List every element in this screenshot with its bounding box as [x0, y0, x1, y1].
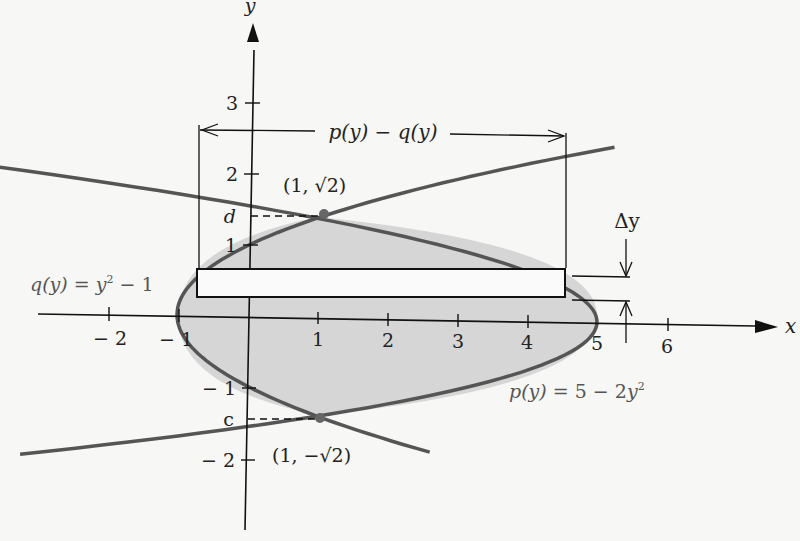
x-axis-arrow-icon	[755, 320, 778, 333]
width-arrow-right	[450, 134, 564, 136]
point-bottom	[315, 413, 325, 423]
width-annotation-label: p(y) − q(y)	[329, 120, 438, 144]
point-bottom-label: (1, −√2)	[272, 444, 351, 466]
c-label: c	[223, 408, 234, 430]
x-tick-label: − 1	[159, 328, 193, 350]
x-tick-label: 1	[312, 328, 324, 350]
x-tick-label: − 2	[93, 327, 127, 349]
area-between-curves-diagram: y x − 2 − 1 1 2 3 4 5 6 3 2 1 − 1 − 2 d …	[0, 0, 800, 541]
y-axis-label: y	[244, 0, 256, 16]
d-label: d	[224, 205, 236, 227]
point-top-label: (1, √2)	[283, 174, 346, 196]
x-tick-label: 4	[521, 331, 533, 353]
y-tick-label: − 1	[202, 377, 236, 399]
p-equation-label: p(y) = 5 − 2y2	[509, 380, 645, 402]
x-tick-label: 3	[452, 330, 464, 352]
point-top	[319, 209, 329, 219]
y-tick-label: 1	[225, 234, 237, 256]
x-tick-label: 6	[661, 335, 673, 357]
x-tick-label: 5	[591, 332, 603, 354]
y-tick-label: − 2	[201, 449, 235, 471]
x-tick-label: 2	[382, 329, 394, 351]
y-tick-label: 2	[226, 163, 238, 185]
y-tick-label: 3	[226, 92, 238, 114]
width-arrow-left	[200, 130, 315, 131]
delta-top-guide	[572, 276, 630, 277]
strip-rectangle	[197, 269, 565, 297]
q-equation-label: q(y) = y2 − 1	[30, 273, 154, 295]
x-axis-label: x	[785, 314, 796, 338]
delta-y-label: Δy	[614, 209, 640, 233]
y-axis-arrow-icon	[247, 23, 259, 42]
